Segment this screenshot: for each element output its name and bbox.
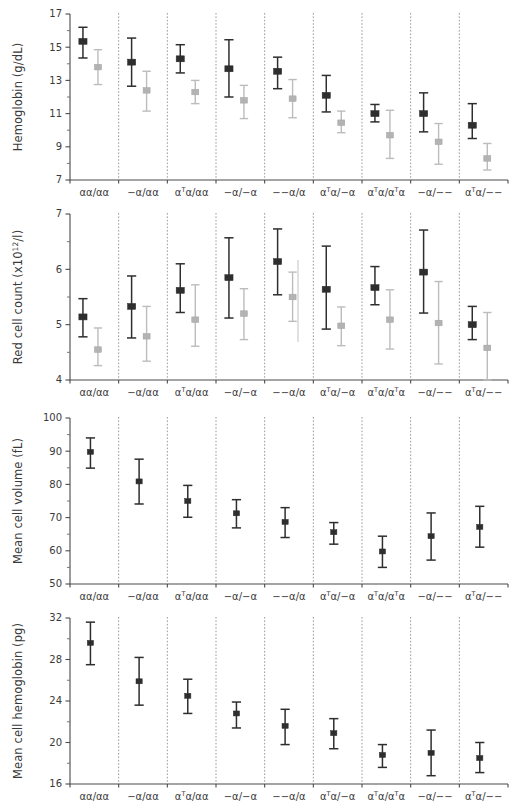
- data-marker: [176, 287, 184, 293]
- data-marker: [420, 111, 428, 117]
- data-marker: [322, 286, 330, 292]
- data-marker: [192, 89, 199, 95]
- data-marker: [331, 530, 337, 535]
- chart-red-cell-count: 4567Red cell count (x1012/l)αα/αα−α/αααT…: [0, 200, 515, 404]
- data-point-group: [483, 143, 491, 170]
- data-marker: [128, 59, 136, 65]
- data-marker: [468, 122, 476, 128]
- data-marker: [289, 96, 296, 102]
- data-point-group: [386, 290, 394, 349]
- data-point-group: [378, 745, 387, 768]
- y-tick-label: 80: [49, 479, 62, 490]
- data-marker: [274, 68, 282, 74]
- data-marker: [484, 156, 491, 162]
- x-category-label: −−α/α: [272, 187, 306, 198]
- data-marker: [94, 64, 101, 70]
- x-category-label: −−α/α: [272, 387, 306, 398]
- data-point-group: [142, 71, 150, 111]
- y-tick-label: 5: [56, 319, 62, 330]
- data-point-group: [419, 230, 428, 313]
- data-point-group: [78, 299, 87, 337]
- data-point-group: [78, 27, 87, 58]
- data-marker: [79, 38, 87, 44]
- data-point-group: [468, 306, 477, 339]
- data-point-group: [378, 536, 387, 567]
- data-marker: [240, 311, 247, 317]
- data-marker: [282, 723, 288, 728]
- data-marker: [428, 534, 434, 539]
- y-tick-label: 28: [49, 654, 62, 665]
- data-point-group: [427, 730, 436, 776]
- y-axis-title: Mean cell volume (fL): [11, 438, 25, 564]
- chart-panel-mean-cell-volume: 5060708090100Mean cell volume (fL)αα/αα−…: [0, 404, 515, 604]
- x-category-label: αα/αα: [79, 591, 109, 602]
- data-point-group: [329, 523, 338, 545]
- y-tick-label: 24: [49, 695, 62, 706]
- data-point-group: [288, 80, 296, 118]
- data-point-group: [322, 246, 331, 329]
- x-category-label: −α/−α: [224, 187, 258, 198]
- chart-panel-red-cell-count: 4567Red cell count (x1012/l)αα/αα−α/αααT…: [0, 200, 515, 404]
- x-category-label: αTα/αTα: [367, 590, 405, 602]
- y-tick-label: 50: [49, 578, 62, 589]
- y-tick-label: 7: [56, 174, 62, 185]
- y-axis-title: Red cell count (x1012/l): [11, 230, 25, 364]
- data-point-group: [86, 438, 95, 468]
- data-marker: [225, 66, 233, 72]
- x-category-label: αTα/αα: [175, 186, 209, 198]
- chart-mean-cell-hemoglobin: 1620242832Mean cell hemoglobin (pg)αα/αα…: [0, 604, 515, 809]
- x-category-label: αTα/−−: [465, 186, 502, 198]
- data-point-group: [419, 93, 428, 132]
- y-tick-label: 6: [56, 264, 62, 275]
- data-marker: [282, 519, 288, 524]
- data-point-group: [386, 110, 394, 158]
- data-point-group: [329, 719, 338, 749]
- data-point-group: [337, 307, 345, 346]
- data-point-group: [142, 306, 150, 361]
- x-category-label: αTα/αα: [175, 386, 209, 398]
- x-category-label: αTα/−α: [320, 386, 356, 398]
- x-category-label: −α/−α: [224, 791, 258, 802]
- x-category-label: αTα/αTα: [367, 386, 405, 398]
- chart-hemoglobin: 7911131517Hemoglobin (g/dL)αα/αα−α/αααTα…: [0, 0, 515, 200]
- data-marker: [420, 269, 428, 275]
- y-tick-label: 11: [49, 108, 62, 119]
- data-point-group: [273, 229, 282, 295]
- y-tick-label: 100: [43, 412, 62, 423]
- data-marker: [379, 752, 385, 757]
- data-marker: [428, 750, 434, 755]
- x-category-label: −α/−−: [417, 387, 452, 398]
- y-tick-label: 13: [49, 75, 62, 86]
- data-point-group: [224, 40, 233, 97]
- data-point-group: [434, 282, 442, 364]
- data-point-group: [281, 508, 290, 538]
- data-point-group: [127, 38, 136, 86]
- y-tick-label: 16: [49, 778, 62, 789]
- data-point-group: [135, 657, 144, 705]
- y-tick-label: 9: [56, 141, 62, 152]
- x-category-label: −α/−−: [417, 187, 452, 198]
- x-category-label: αTα/αTα: [367, 790, 405, 802]
- x-category-label: αTα/αα: [175, 790, 209, 802]
- chart-panel-mean-cell-hemoglobin: 1620242832Mean cell hemoglobin (pg)αα/αα…: [0, 604, 515, 809]
- data-point-group: [94, 328, 102, 366]
- axis-lines: [70, 418, 508, 584]
- data-marker: [477, 756, 483, 761]
- data-marker: [233, 711, 239, 716]
- data-marker: [371, 285, 379, 291]
- data-marker: [240, 98, 247, 104]
- data-marker: [322, 92, 330, 98]
- data-point-group: [483, 312, 491, 380]
- data-point-group: [427, 513, 436, 560]
- y-axis-title: Hemoglobin (g/dL): [11, 43, 25, 152]
- data-marker: [331, 731, 337, 736]
- data-point-group: [475, 743, 484, 773]
- data-point-group: [337, 111, 345, 133]
- data-point-group: [370, 104, 379, 121]
- y-tick-label: 90: [49, 446, 62, 457]
- data-marker: [87, 449, 93, 454]
- y-tick-label: 17: [49, 8, 62, 19]
- data-marker: [136, 679, 142, 684]
- data-marker: [225, 275, 233, 281]
- data-point-group: [240, 289, 248, 340]
